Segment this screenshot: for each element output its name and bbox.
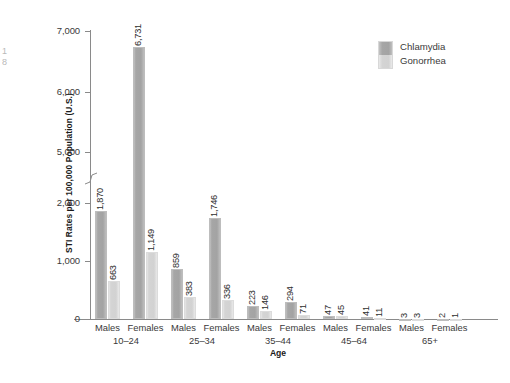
- y-tick-label: 1,000: [28, 255, 80, 266]
- y-tick-mark: [85, 261, 90, 262]
- page-edge-fragment: 1 8: [2, 46, 8, 68]
- x-axis-title: Age: [228, 348, 328, 358]
- x-label-age-group: 65+: [400, 335, 460, 346]
- bar-gonorrhea-0: 663: [108, 281, 120, 319]
- bar-value-label: 223: [247, 290, 257, 305]
- bar-value-label: 41: [361, 306, 371, 316]
- bar-value-label: 663: [108, 265, 118, 280]
- x-label-age-group: 10–24: [96, 335, 156, 346]
- bar-chlamydia-7: 41: [361, 317, 373, 319]
- bar-value-label: 47: [323, 305, 333, 315]
- y-tick-label: 6,000: [28, 86, 80, 97]
- x-label-age-group: 35–44: [248, 335, 308, 346]
- legend-swatch-chlamydia: [379, 42, 392, 55]
- y-tick-mark: [85, 152, 90, 153]
- bar-chlamydia-6: 47: [323, 316, 335, 319]
- legend-label-chlamydia: Chlamydia: [400, 41, 445, 52]
- x-label-sex: Females: [420, 322, 480, 333]
- y-tick-label: 0: [28, 313, 80, 324]
- bar-value-label: 146: [260, 295, 270, 310]
- y-tick-mark: [85, 92, 90, 93]
- bar-gonorrhea-7: 11: [374, 318, 386, 320]
- bar-value-label: 71: [298, 304, 308, 314]
- bar-gonorrhea-3: 336: [222, 300, 234, 319]
- bar-value-label: 2: [437, 313, 447, 318]
- bar-value-label: 1: [450, 313, 460, 318]
- bar-gonorrhea-6: 45: [336, 316, 348, 319]
- y-tick-label: 2,000: [28, 197, 80, 208]
- bar-value-label: 294: [285, 286, 295, 301]
- bar-chlamydia-9: 2: [437, 319, 449, 321]
- legend-swatch-stack: [378, 41, 393, 69]
- bar-value-label: 859: [171, 253, 181, 268]
- bar-chlamydia-8: 3: [399, 319, 411, 321]
- bar-chlamydia-1: 6,731: [133, 47, 145, 319]
- bar-value-label: 6,731: [133, 24, 143, 46]
- bar-gonorrhea-9: 1: [450, 319, 462, 321]
- y-tick-mark: [85, 319, 90, 320]
- y-tick-mark: [85, 31, 90, 32]
- legend-swatch-gonorrhea: [379, 55, 392, 68]
- bar-value-label: 3: [399, 313, 409, 318]
- y-tick-mark: [85, 203, 90, 204]
- bar-value-label: 1,149: [146, 229, 156, 251]
- bar-gonorrhea-4: 146: [260, 311, 272, 319]
- bar-gonorrhea-1: 1,149: [146, 252, 158, 319]
- bar-gonorrhea-5: 71: [298, 315, 310, 319]
- bar-value-label: 1,746: [209, 195, 219, 217]
- bar-gonorrhea-8: 3: [412, 319, 424, 321]
- bar-chlamydia-4: 223: [247, 306, 259, 319]
- bar-value-label: 336: [222, 284, 232, 299]
- bar-value-label: 45: [336, 306, 346, 316]
- bar-value-label: 1,870: [95, 188, 105, 210]
- bar-chlamydia-0: 1,870: [95, 211, 107, 319]
- y-tick-label: 7,000: [28, 25, 80, 36]
- bar-value-label: 11: [374, 308, 384, 317]
- y-tick-label: 5,000: [28, 146, 80, 157]
- bar-gonorrhea-2: 383: [184, 297, 196, 319]
- x-label-age-group: 25–34: [172, 335, 232, 346]
- bar-value-label: 3: [412, 313, 422, 318]
- bar-chlamydia-3: 1,746: [209, 218, 221, 319]
- x-label-age-group: 45–64: [324, 335, 384, 346]
- chart-legend: Chlamydia Gonorrhea: [378, 41, 498, 71]
- bar-chlamydia-5: 294: [285, 302, 297, 319]
- bar-value-label: 383: [184, 281, 194, 296]
- bar-chlamydia-2: 859: [171, 269, 183, 319]
- legend-label-gonorrhea: Gonorrhea: [400, 55, 446, 66]
